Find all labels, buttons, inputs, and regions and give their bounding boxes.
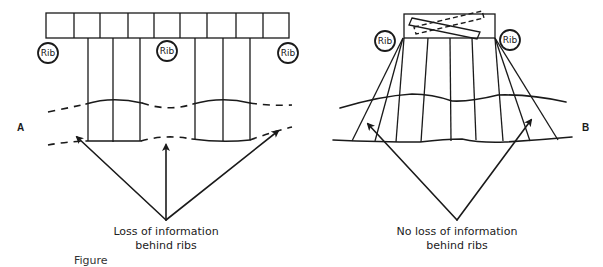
caption-b-line1: No loss of information xyxy=(382,225,532,239)
panel-label-a: A xyxy=(17,122,24,133)
rib-label-a-center: Rib xyxy=(156,46,178,56)
arrows-a xyxy=(77,131,278,220)
lower-interface-b xyxy=(333,137,572,142)
panel-label-b: B xyxy=(582,122,589,133)
beam-lines-a-right xyxy=(195,38,250,141)
arrows-b xyxy=(368,120,531,220)
caption-a: Loss of information behind ribs xyxy=(96,225,236,253)
transducer-array-a xyxy=(46,13,289,38)
caption-a-line2: behind ribs xyxy=(96,239,236,253)
figure-caption: Figure xyxy=(74,254,108,267)
rib-label-a-right: Rib xyxy=(277,48,299,58)
rib-label-b-right: Rib xyxy=(499,35,521,45)
rib-label-b-left: Rib xyxy=(374,36,396,46)
rib-label-a-left: Rib xyxy=(37,48,59,58)
caption-b: No loss of information behind ribs xyxy=(382,225,532,253)
upper-interface-a xyxy=(48,100,292,112)
caption-a-line1: Loss of information xyxy=(96,225,236,239)
transducer-b xyxy=(404,11,495,39)
lower-interface-a xyxy=(48,127,292,145)
beam-lines-a-left xyxy=(88,38,140,142)
caption-b-line2: behind ribs xyxy=(382,239,532,253)
